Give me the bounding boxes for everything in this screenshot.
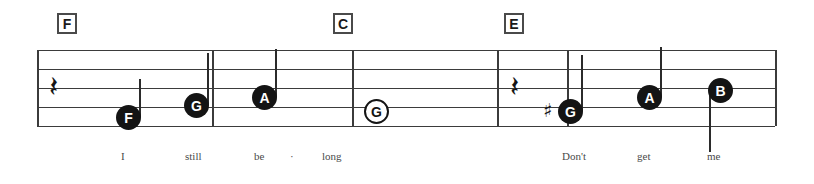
staff-line-2: [37, 69, 775, 70]
notehead-b[interactable]: B: [708, 78, 733, 103]
staff-line-1: [37, 50, 775, 51]
note-stem-up: [207, 53, 209, 105]
quarter-rest[interactable]: 𝄽: [49, 72, 58, 102]
chord-symbol-label: C: [338, 17, 348, 31]
barline-4: [497, 50, 499, 126]
note-stem-up: [581, 55, 583, 111]
chord-symbol-label: F: [63, 17, 72, 31]
music-staff-sheet: FCE 𝄽𝄽 FGAG♯GAB Istillbe·longDon'tgetme: [0, 0, 814, 184]
barline-1: [37, 50, 39, 126]
notehead-a[interactable]: A: [637, 85, 662, 110]
lyric-syllable: still: [185, 150, 202, 162]
notehead-g[interactable]: G: [558, 99, 583, 124]
notehead-f[interactable]: F: [116, 105, 141, 130]
lyric-syllable: Don't: [562, 150, 586, 162]
notehead-a[interactable]: A: [252, 85, 277, 110]
chord-symbol-f[interactable]: F: [57, 13, 77, 34]
barline-2: [212, 50, 214, 126]
staff-line-5: [37, 126, 775, 127]
staff-line-3: [37, 88, 775, 89]
lyric-syllable: be: [254, 150, 264, 162]
staff-line-4: [37, 107, 775, 108]
notehead-g[interactable]: G: [184, 93, 209, 118]
lyric-syllable: long: [322, 150, 342, 162]
lyric-syllable: ·: [290, 150, 294, 162]
chord-symbol-label: E: [509, 17, 518, 31]
lyric-syllable: me: [707, 150, 720, 162]
sharp-icon: ♯: [543, 101, 552, 120]
notehead-g[interactable]: G: [364, 99, 389, 124]
note-stem-up: [660, 47, 662, 97]
lyric-syllable: get: [637, 150, 650, 162]
barline-6: [775, 50, 777, 126]
barline-3: [352, 50, 354, 126]
chord-symbol-c[interactable]: C: [333, 13, 353, 34]
quarter-rest[interactable]: 𝄽: [510, 72, 519, 102]
note-stem-up: [275, 49, 277, 97]
chord-symbol-e[interactable]: E: [504, 13, 524, 34]
lyric-syllable: I: [121, 150, 125, 162]
